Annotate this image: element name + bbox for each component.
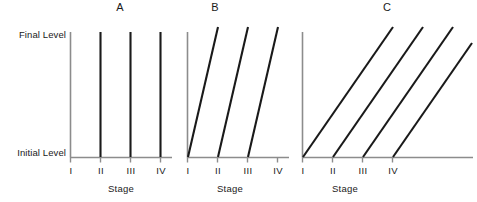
panel-c-trajectory-onset-iii: [363, 27, 453, 157]
panel-c-ticklabel-ii: II: [322, 165, 344, 176]
panel-b-ticklabel-iii: III: [237, 165, 259, 176]
panel-b-x-axis-title: Stage: [200, 183, 260, 194]
panel-b-trajectory-onset-i: [188, 27, 218, 157]
panel-c-ticklabel-i: I: [292, 165, 314, 176]
panel-c: C I II III IV Stage: [293, 0, 477, 202]
panel-a-ticklabel-ii: II: [90, 165, 112, 176]
figure-root: Final Level Initial Level A I II III IV …: [0, 0, 477, 202]
panel-a-ticklabel-iv: IV: [150, 165, 172, 176]
panel-c-trajectory-onset-ii: [333, 27, 423, 157]
panel-a-ticklabel-iii: III: [120, 165, 142, 176]
panel-a: A I II III IV Stage: [0, 0, 178, 202]
panel-a-ticklabel-i: I: [60, 165, 82, 176]
panel-a-x-axis-title: Stage: [91, 183, 151, 194]
panel-b-trajectory-onset-ii: [218, 27, 248, 157]
panel-c-trajectory-onset-iv: [393, 43, 472, 157]
panel-c-x-axis-title: Stage: [315, 183, 375, 194]
panel-c-ticklabel-iii: III: [352, 165, 374, 176]
panel-b-trajectory-onset-iii: [248, 27, 278, 157]
panel-c-ticklabel-iv: IV: [382, 165, 404, 176]
panel-b: B I II III IV Stage: [178, 0, 293, 202]
panel-b-ticklabel-ii: II: [207, 165, 229, 176]
panel-c-trajectory-onset-i: [303, 27, 393, 157]
panel-b-ticklabel-iv: IV: [267, 165, 289, 176]
panel-b-ticklabel-i: I: [177, 165, 199, 176]
